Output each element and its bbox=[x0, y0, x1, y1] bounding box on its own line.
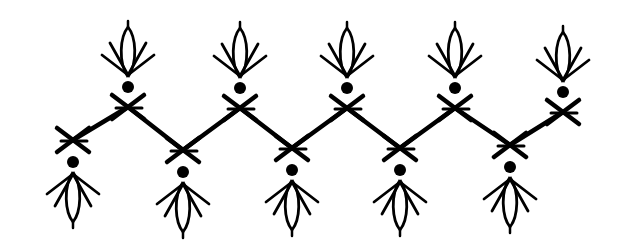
leaf bbox=[165, 184, 183, 216]
leaf bbox=[73, 174, 91, 206]
cross-icon bbox=[439, 96, 471, 120]
cross-icon bbox=[167, 138, 199, 162]
bud-icon bbox=[47, 172, 99, 228]
leaf bbox=[222, 44, 240, 76]
bud-icon bbox=[374, 180, 426, 236]
cross-icon bbox=[384, 136, 416, 160]
cross-icon bbox=[276, 136, 308, 160]
bud-icon bbox=[214, 22, 266, 78]
bud-icon bbox=[429, 22, 481, 78]
cross-icon bbox=[494, 133, 526, 157]
dot-icon bbox=[286, 164, 298, 176]
cross-icon bbox=[547, 100, 579, 124]
dot-icon bbox=[557, 86, 569, 98]
bud-icon bbox=[266, 180, 318, 236]
cross-icon bbox=[224, 96, 256, 120]
petal bbox=[121, 27, 135, 77]
petal bbox=[176, 182, 190, 232]
bud-icon bbox=[102, 21, 154, 77]
border-illustration bbox=[0, 0, 629, 252]
petal bbox=[66, 172, 80, 222]
leaf bbox=[55, 174, 73, 206]
zigzag-border-drawing bbox=[0, 0, 629, 252]
leaf bbox=[437, 44, 455, 76]
petal bbox=[503, 177, 517, 227]
dot-icon bbox=[122, 81, 134, 93]
dot-icon bbox=[394, 164, 406, 176]
leaf bbox=[347, 44, 365, 76]
leaf bbox=[492, 179, 510, 211]
zigzag-polyline bbox=[73, 107, 563, 150]
leaf bbox=[128, 43, 146, 75]
dot-icon bbox=[177, 166, 189, 178]
dot-icon bbox=[504, 161, 516, 173]
dot-icon bbox=[341, 82, 353, 94]
leaf bbox=[240, 44, 258, 76]
leaf bbox=[329, 44, 347, 76]
petal bbox=[448, 28, 462, 78]
zigzag-line bbox=[73, 107, 563, 150]
leaf bbox=[563, 48, 581, 80]
petal bbox=[233, 28, 247, 78]
petal bbox=[393, 180, 407, 230]
bud-icon bbox=[157, 182, 209, 238]
cross-icon bbox=[331, 96, 363, 120]
leaf bbox=[382, 182, 400, 214]
bud-icon bbox=[484, 177, 536, 233]
leaf bbox=[400, 182, 418, 214]
leaf bbox=[292, 182, 310, 214]
leaf bbox=[545, 48, 563, 80]
leaf bbox=[455, 44, 473, 76]
bud-icon bbox=[321, 22, 373, 78]
leaf bbox=[274, 182, 292, 214]
petal bbox=[285, 180, 299, 230]
dot-icon bbox=[234, 82, 246, 94]
leaf bbox=[183, 184, 201, 216]
leaf bbox=[110, 43, 128, 75]
cross-icon bbox=[57, 128, 89, 152]
dot-icon bbox=[67, 156, 79, 168]
cross-icon bbox=[112, 95, 144, 119]
petal bbox=[340, 28, 354, 78]
leaf bbox=[510, 179, 528, 211]
dot-icon bbox=[449, 82, 461, 94]
petal bbox=[556, 32, 570, 82]
bud-icon bbox=[537, 26, 589, 82]
